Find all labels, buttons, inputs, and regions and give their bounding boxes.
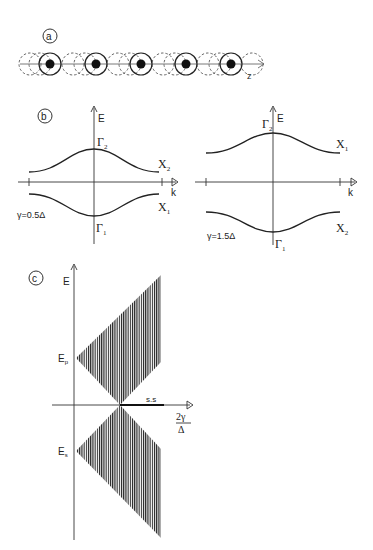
surface-state-label: s.s [146, 395, 156, 404]
panel-c: c E s.s 2γ Δ Ep Es [29, 264, 193, 540]
panel-c-label: c [32, 273, 37, 284]
x1-label: X1 [158, 200, 171, 216]
x2-label: X2 [158, 157, 171, 173]
x2-label: X2 [336, 221, 349, 237]
panel-b-right: E k Γ2 Γ1 X1 X2 γ=1.5Δ [195, 106, 357, 253]
k-axis-label: k [171, 187, 177, 198]
es-label: Es [58, 446, 68, 458]
gamma1-label: Γ1 [96, 221, 107, 237]
x-label-numerator: 2γ [176, 411, 186, 422]
x-label-denominator: Δ [178, 424, 185, 435]
ep-label: Ep [58, 353, 69, 365]
e-axis-label: E [63, 276, 70, 287]
lower-band-region [76, 405, 161, 538]
gamma-ratio-label: γ=1.5Δ [207, 231, 235, 241]
gamma2-label: Γ2 [262, 117, 273, 133]
gamma2-label: Γ2 [97, 135, 108, 151]
panel-b-left: b E k Γ2 Γ1 X2 X1 γ=0.5Δ [17, 106, 178, 244]
panel-b-label: b [41, 111, 47, 122]
gamma-ratio-label: γ=0.5Δ [17, 210, 45, 220]
panel-a-label: a [46, 31, 52, 42]
e-axis-label: E [277, 113, 284, 124]
z-axis-label: z [247, 71, 252, 81]
panel-a: a z [19, 29, 264, 81]
gamma1-label: Γ1 [275, 237, 286, 253]
upper-band-region [76, 275, 161, 405]
x1-label: X1 [336, 137, 349, 153]
figure-canvas: a z [0, 0, 373, 550]
e-axis-label: E [98, 113, 105, 124]
k-axis-label: k [348, 187, 354, 198]
